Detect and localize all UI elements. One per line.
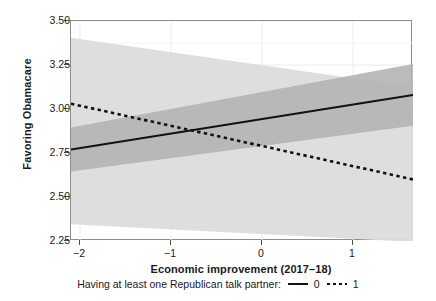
x-tick-label: 1 xyxy=(332,247,372,259)
x-tick-mark xyxy=(261,240,262,245)
y-axis-title: Favoring Obamacare xyxy=(21,24,33,204)
y-tick-label: 3.00 xyxy=(34,103,70,113)
x-tick-label: −2 xyxy=(59,247,99,259)
legend-label-0: 0 xyxy=(314,278,320,290)
plot-panel xyxy=(70,20,412,240)
y-tick-label: 2.50 xyxy=(34,191,70,201)
legend-key-dotted-line-icon xyxy=(327,279,347,289)
x-axis-title: Economic improvement (2017–18) xyxy=(70,263,412,275)
x-tick-mark xyxy=(79,240,80,245)
chart-legend: Having at least one Republican talk part… xyxy=(0,278,436,290)
legend-key-solid-line-icon xyxy=(288,279,308,289)
x-tick-mark xyxy=(170,240,171,245)
legend-entry-0[interactable]: 0 xyxy=(288,278,320,290)
legend-title: Having at least one Republican talk part… xyxy=(77,278,281,290)
x-axis: −2 −1 0 1 Economic improvement (2017–18) xyxy=(0,240,436,301)
legend-label-1: 1 xyxy=(353,278,359,290)
x-tick-label: −1 xyxy=(150,247,190,259)
y-tick-label: 2.75 xyxy=(34,147,70,157)
x-tick-mark xyxy=(352,240,353,245)
plot-area xyxy=(71,21,413,241)
x-tick-label: 0 xyxy=(241,247,281,259)
y-tick-label: 3.25 xyxy=(34,59,70,69)
legend-entry-1[interactable]: 1 xyxy=(327,278,359,290)
chart-figure: 3.50 3.25 3.00 2.75 2.50 2.25 Favoring O… xyxy=(0,0,436,301)
y-tick-label: 3.50 xyxy=(34,15,70,25)
